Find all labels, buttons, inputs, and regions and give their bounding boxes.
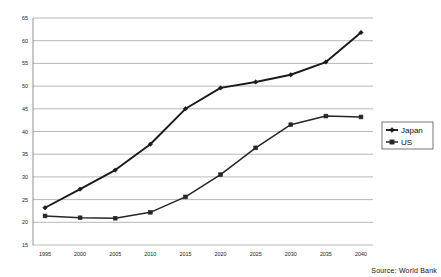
legend-label-us: US	[401, 138, 412, 147]
y-tick-label: 30	[22, 174, 28, 180]
x-tick-label: 2000	[74, 251, 86, 257]
data-point-marker	[184, 195, 188, 199]
y-tick-label: 40	[22, 129, 28, 135]
data-point-marker	[148, 210, 152, 214]
x-tick-label: 2030	[285, 251, 297, 257]
data-point-marker	[390, 140, 394, 144]
x-tick-label: 2035	[320, 251, 332, 257]
y-tick-label: 45	[22, 106, 28, 112]
y-tick-label: 15	[22, 242, 28, 248]
y-tick-label: 35	[22, 151, 28, 157]
y-tick-label: 25	[22, 197, 28, 203]
legend-label-japan: Japan	[401, 126, 423, 135]
x-tick-label: 2025	[250, 251, 262, 257]
y-tick-label: 60	[22, 38, 28, 44]
data-point-marker	[43, 214, 47, 218]
data-point-marker	[289, 123, 293, 127]
x-tick-label: 2015	[179, 251, 191, 257]
x-tick-label: 2040	[355, 251, 367, 257]
x-tick-label: 1995	[39, 251, 51, 257]
y-tick-label: 20	[22, 219, 28, 225]
source-note: Source: World Bank	[371, 267, 437, 274]
data-point-marker	[324, 114, 328, 118]
data-point-marker	[78, 216, 82, 220]
y-tick-label: 50	[22, 83, 28, 89]
y-tick-label: 65	[22, 15, 28, 21]
chart-background	[0, 0, 441, 277]
x-tick-label: 2010	[144, 251, 156, 257]
data-point-marker	[359, 115, 363, 119]
data-point-marker	[113, 216, 117, 220]
y-tick-label: 55	[22, 60, 28, 66]
chart-legend: JapanUS	[382, 122, 433, 149]
chart-container: 1520253035404550556065 19952000200520102…	[0, 0, 441, 277]
x-tick-label: 2020	[215, 251, 227, 257]
data-point-marker	[219, 173, 223, 177]
line-chart: 1520253035404550556065 19952000200520102…	[0, 0, 441, 277]
x-tick-label: 2005	[109, 251, 121, 257]
data-point-marker	[254, 146, 258, 150]
